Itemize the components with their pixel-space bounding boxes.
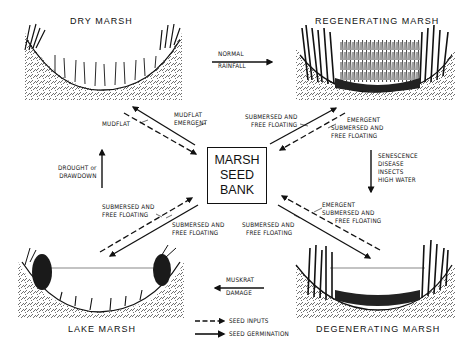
regen-input-label: EMERGENT SUBMERSED AND FREE FLOATING — [331, 116, 383, 140]
regenerating-marsh-illustration — [296, 25, 455, 100]
lake-marsh-illustration — [18, 245, 184, 318]
label-line: NORMAL — [218, 50, 246, 58]
label-line: EMERGENT — [174, 119, 207, 127]
label-line: FREE FLOATING — [172, 229, 224, 237]
dry-input-label: MUDFLAT — [102, 120, 130, 128]
label-line: SUBMERSED AND — [242, 221, 294, 229]
label-line: DISEASE — [378, 160, 418, 168]
label-line: EMERGENT — [331, 116, 383, 124]
label-line: EMERGENT — [322, 201, 381, 209]
dry-germ-label: MUDFLAT EMERGENT — [174, 111, 207, 127]
label-line: FREE FLOATING — [245, 121, 297, 129]
label-line: SUBMERSED AND — [245, 113, 297, 121]
lake-germ-label: SUBMERSED AND FREE FLOATING — [172, 221, 224, 237]
label-line: FREE FLOATING — [242, 229, 294, 237]
drought-label: DROUGHT or DRAWDOWN — [58, 164, 97, 180]
dry-marsh-illustration — [25, 24, 182, 100]
legend-seed-inputs: SEED INPUTS — [229, 317, 269, 325]
box-line-2: SEED — [208, 168, 266, 183]
label-line: MUSKRAT — [226, 276, 254, 284]
regen-germ-label: SUBMERSED AND FREE FLOATING — [245, 113, 297, 129]
degen-input-label: EMERGENT SUBMERSED AND FREE FLOATING — [322, 201, 381, 225]
marsh-seed-bank-box: MARSH SEED BANK — [207, 147, 267, 204]
lake-input-label: SUBMERSED AND FREE FLOATING — [102, 203, 154, 219]
label-line: SUBMERSED AND — [172, 221, 224, 229]
senescence-label: SENESCENCE DISEASE INSECTS HIGH WATER — [378, 152, 418, 184]
normal-rainfall-label: NORMAL RAINFALL — [218, 50, 246, 70]
dry-marsh-title: DRY MARSH — [70, 16, 133, 26]
label-line: SUBMERSED AND — [102, 203, 154, 211]
label-line: FREE FLOATING — [331, 132, 383, 140]
regenerating-marsh-title: REGENERATING MARSH — [315, 16, 439, 26]
label-line: SENESCENCE — [378, 152, 418, 160]
label-line: DROUGHT or — [58, 164, 97, 172]
box-line-1: MARSH — [208, 153, 266, 168]
label-line: SUBMERSED AND — [331, 124, 383, 132]
label-line: DRAWDOWN — [58, 172, 97, 180]
label-line: DAMAGE — [226, 289, 254, 297]
label-line: HIGH WATER — [378, 176, 418, 184]
label-line: FREE FLOATING — [102, 211, 154, 219]
label-line: RAINFALL — [218, 62, 246, 70]
box-line-3: BANK — [208, 183, 266, 198]
label-line: INSECTS — [378, 168, 418, 176]
label-line: FREE FLOATING — [322, 217, 381, 225]
lake-marsh-title: LAKE MARSH — [68, 324, 136, 334]
degenerating-marsh-title: DEGENERATING MARSH — [316, 324, 440, 334]
muskrat-damage-label: MUSKRAT DAMAGE — [226, 276, 254, 297]
degenerating-marsh-illustration — [296, 240, 455, 318]
label-line: MUDFLAT — [174, 111, 207, 119]
label-line: SUBMERSED AND — [322, 209, 381, 217]
degen-germ-label: SUBMERSED AND FREE FLOATING — [242, 221, 294, 237]
legend-seed-germination: SEED GERMINATION — [229, 330, 289, 338]
